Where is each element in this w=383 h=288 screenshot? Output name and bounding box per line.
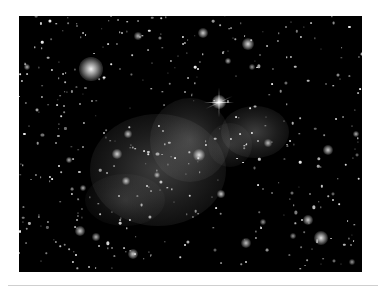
field-star xyxy=(40,225,41,226)
field-star xyxy=(131,54,133,56)
field-star xyxy=(143,258,144,259)
field-star xyxy=(202,53,203,54)
field-star xyxy=(64,91,66,93)
field-star xyxy=(233,38,234,39)
diffuse-glow xyxy=(90,114,226,226)
field-star xyxy=(333,260,336,263)
field-star xyxy=(341,57,342,58)
field-star xyxy=(347,220,349,222)
field-star xyxy=(265,249,268,252)
bright-source xyxy=(128,249,138,259)
field-star xyxy=(286,57,288,59)
field-star xyxy=(279,90,282,93)
field-star xyxy=(95,267,97,269)
field-star xyxy=(238,117,239,118)
field-star xyxy=(332,22,335,25)
field-star xyxy=(250,132,252,134)
field-star xyxy=(59,61,60,62)
field-star xyxy=(278,32,280,34)
field-star xyxy=(317,165,320,168)
field-star xyxy=(170,156,172,158)
field-star xyxy=(76,215,78,217)
bright-source xyxy=(323,145,333,155)
field-star xyxy=(320,263,321,264)
field-star xyxy=(257,65,260,68)
field-star xyxy=(300,36,302,38)
field-star xyxy=(98,203,99,204)
field-star xyxy=(151,17,153,19)
field-star xyxy=(164,241,165,242)
field-star xyxy=(88,266,90,268)
field-star xyxy=(59,95,61,97)
field-star xyxy=(194,35,196,37)
field-star xyxy=(235,75,236,76)
field-star xyxy=(99,169,102,172)
bright-source xyxy=(92,233,100,241)
field-star xyxy=(77,213,78,214)
bright-source xyxy=(349,259,355,265)
field-star xyxy=(303,231,305,233)
field-star xyxy=(114,255,115,256)
field-star xyxy=(68,248,70,250)
field-star xyxy=(72,159,74,161)
field-star xyxy=(130,145,131,146)
field-star xyxy=(130,147,131,148)
field-star xyxy=(235,39,236,40)
field-star xyxy=(49,180,51,182)
field-star xyxy=(357,141,358,142)
field-star xyxy=(105,129,107,131)
field-star xyxy=(285,26,287,28)
field-star xyxy=(140,204,143,207)
field-star xyxy=(147,151,149,153)
field-star xyxy=(342,117,344,119)
field-star xyxy=(259,54,261,56)
field-star xyxy=(299,117,301,119)
field-star xyxy=(81,217,82,218)
field-star xyxy=(110,140,112,142)
field-star xyxy=(224,16,225,17)
field-star xyxy=(41,41,43,43)
field-star xyxy=(77,199,79,201)
field-star xyxy=(56,23,57,24)
field-star xyxy=(57,135,59,137)
field-star xyxy=(57,99,58,100)
field-star xyxy=(38,216,40,218)
field-star xyxy=(106,173,108,175)
field-star xyxy=(41,95,43,97)
field-star xyxy=(95,100,96,101)
field-star xyxy=(331,192,334,195)
field-star xyxy=(182,43,184,45)
field-star xyxy=(289,254,290,255)
field-star xyxy=(156,152,159,155)
field-star xyxy=(65,72,67,74)
field-star xyxy=(75,254,77,256)
field-star xyxy=(150,190,152,192)
field-star xyxy=(257,140,259,142)
field-star xyxy=(160,33,161,34)
field-star xyxy=(332,85,333,86)
field-star xyxy=(321,49,322,50)
field-star xyxy=(184,244,186,246)
field-star xyxy=(106,242,109,245)
field-star xyxy=(116,42,118,44)
field-star xyxy=(61,115,63,117)
field-star xyxy=(34,47,35,48)
field-star xyxy=(81,208,83,210)
field-star xyxy=(76,25,78,27)
field-star xyxy=(199,61,201,63)
field-star xyxy=(76,219,78,221)
field-star xyxy=(120,219,122,221)
field-star xyxy=(214,137,217,140)
field-star xyxy=(197,161,198,162)
field-star xyxy=(278,182,280,184)
field-star xyxy=(174,67,175,68)
field-star xyxy=(22,164,24,166)
field-star xyxy=(357,138,358,139)
field-star xyxy=(290,56,292,58)
bright-source xyxy=(217,190,225,198)
field-star xyxy=(108,20,110,22)
field-star xyxy=(77,268,78,269)
field-star xyxy=(110,16,112,17)
field-star xyxy=(320,166,321,167)
field-star xyxy=(23,207,24,208)
